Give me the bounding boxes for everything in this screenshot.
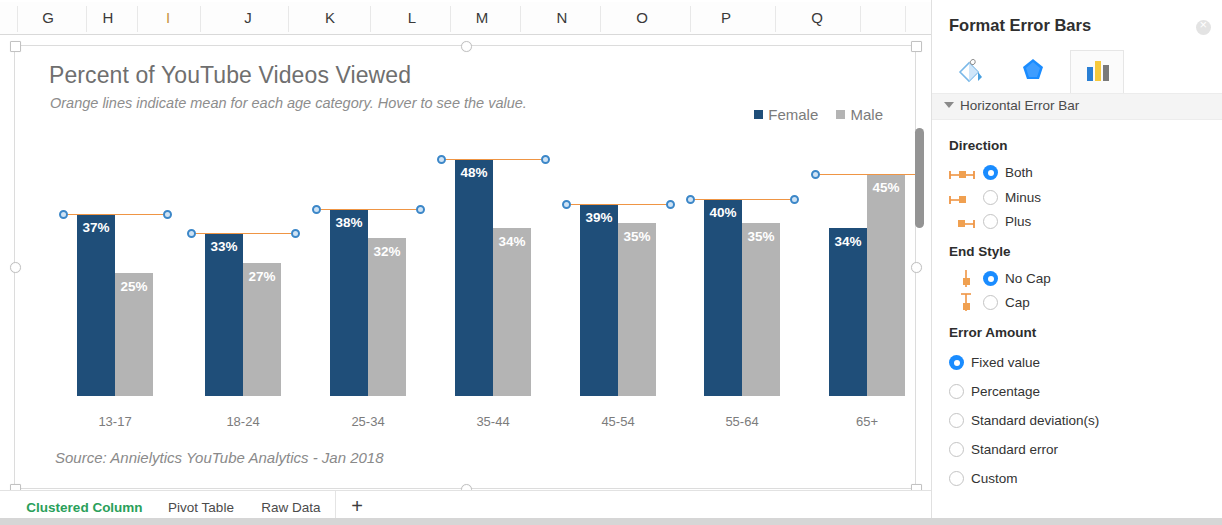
legend-item-male[interactable]: Male bbox=[836, 106, 883, 123]
bar-label-female-55-64: 40% bbox=[704, 205, 742, 220]
bar-label-female-35-44: 48% bbox=[455, 165, 493, 180]
column-header-N[interactable]: N bbox=[540, 2, 584, 34]
bar-male-65+[interactable]: 45% bbox=[867, 174, 905, 396]
chart-subtitle: Orange lines indicate mean for each age … bbox=[50, 95, 527, 111]
direction-radio-plus[interactable] bbox=[983, 214, 998, 229]
error-bar-node-right-35-44[interactable] bbox=[541, 155, 550, 164]
error-amount-radio-fixed[interactable] bbox=[949, 355, 964, 370]
x-axis-label-55-64: 55-64 bbox=[697, 414, 787, 429]
bar-male-13-17[interactable]: 25% bbox=[115, 273, 153, 396]
bar-female-13-17[interactable]: 37% bbox=[77, 214, 115, 396]
x-axis-label-18-24: 18-24 bbox=[198, 414, 288, 429]
error-bar-line-35-44[interactable] bbox=[441, 159, 545, 160]
options-chart-icon[interactable] bbox=[1070, 50, 1124, 94]
error-bar-node-left-45-54[interactable] bbox=[562, 200, 571, 209]
close-icon[interactable] bbox=[1196, 20, 1211, 35]
effects-icon[interactable] bbox=[1007, 50, 1059, 92]
resize-handle-mid-left[interactable] bbox=[10, 262, 21, 273]
column-separator bbox=[137, 6, 138, 32]
bar-female-65+[interactable]: 34% bbox=[829, 228, 867, 396]
error-bar-node-right-18-24[interactable] bbox=[291, 229, 300, 238]
resize-handle-top-right[interactable] bbox=[911, 41, 922, 52]
spreadsheet-area: GHIJKLMNOPQ Percent of YouTube Videos Vi… bbox=[0, 0, 931, 525]
endstyle-nocap-icon bbox=[959, 269, 973, 293]
bar-label-female-25-34: 38% bbox=[330, 215, 368, 230]
x-axis-label-13-17: 13-17 bbox=[70, 414, 160, 429]
error-bar-line-25-34[interactable] bbox=[316, 209, 420, 210]
end-style-radio-cap[interactable] bbox=[983, 295, 998, 310]
bar-male-45-54[interactable]: 35% bbox=[618, 223, 656, 396]
legend-label-male: Male bbox=[850, 106, 883, 123]
bar-male-55-64[interactable]: 35% bbox=[742, 223, 780, 396]
column-header-I[interactable]: I bbox=[146, 2, 190, 34]
error-bar-node-left-35-44[interactable] bbox=[437, 155, 446, 164]
error-amount-label-stdev: Standard deviation(s) bbox=[971, 413, 1099, 428]
direction-heading: Direction bbox=[949, 138, 1008, 153]
column-header-Q[interactable]: Q bbox=[795, 2, 839, 34]
column-header-G[interactable]: G bbox=[26, 2, 70, 34]
error-amount-radio-percentage[interactable] bbox=[949, 384, 964, 399]
column-header-H[interactable]: H bbox=[86, 2, 130, 34]
error-amount-radio-custom[interactable] bbox=[949, 471, 964, 486]
error-bar-node-right-55-64[interactable] bbox=[790, 195, 799, 204]
column-header-P[interactable]: P bbox=[704, 2, 748, 34]
bar-female-45-54[interactable]: 39% bbox=[580, 204, 618, 396]
bar-label-female-18-24: 33% bbox=[205, 239, 243, 254]
bar-female-35-44[interactable]: 48% bbox=[455, 159, 493, 396]
column-header-row: GHIJKLMNOPQ bbox=[0, 2, 931, 35]
error-bar-line-13-17[interactable] bbox=[63, 214, 167, 215]
bar-female-18-24[interactable]: 33% bbox=[205, 233, 243, 396]
bar-male-35-44[interactable]: 34% bbox=[493, 228, 531, 396]
column-header-J[interactable]: J bbox=[226, 2, 270, 34]
column-header-M[interactable]: M bbox=[460, 2, 504, 34]
bar-label-female-45-54: 39% bbox=[580, 210, 618, 225]
error-bar-node-left-25-34[interactable] bbox=[312, 205, 321, 214]
error-bar-line-65+[interactable] bbox=[815, 174, 919, 175]
resize-handle-top-left[interactable] bbox=[10, 41, 21, 52]
error-bar-node-right-13-17[interactable] bbox=[163, 210, 172, 219]
error-amount-radio-standard-error[interactable] bbox=[949, 442, 964, 457]
direction-radio-both[interactable] bbox=[983, 165, 998, 180]
error-amount-radio-stdev[interactable] bbox=[949, 413, 964, 428]
panel-header: Format Error Bars bbox=[932, 6, 1222, 46]
column-header-L[interactable]: L bbox=[390, 2, 434, 34]
error-bar-node-right-25-34[interactable] bbox=[416, 205, 425, 214]
error-amount-label-custom: Custom bbox=[971, 471, 1018, 486]
vertical-scrollbar[interactable] bbox=[915, 128, 924, 228]
bar-label-male-65+: 45% bbox=[867, 180, 905, 195]
direction-radio-minus[interactable] bbox=[983, 190, 998, 205]
error-bar-line-55-64[interactable] bbox=[690, 199, 794, 200]
legend-swatch-male bbox=[836, 110, 845, 119]
section-horizontal-error-bar[interactable]: Horizontal Error Bar bbox=[932, 93, 1222, 120]
bar-female-55-64[interactable]: 40% bbox=[704, 199, 742, 396]
error-bar-node-left-65+[interactable] bbox=[811, 170, 820, 179]
end-style-radio-no-cap[interactable] bbox=[983, 271, 998, 286]
bar-male-18-24[interactable]: 27% bbox=[243, 263, 281, 396]
error-bar-node-left-18-24[interactable] bbox=[187, 229, 196, 238]
direction-label-minus: Minus bbox=[1005, 190, 1041, 205]
resize-handle-top-center[interactable] bbox=[461, 41, 472, 52]
chart-source-note: Source: Annielytics YouTube Analytics - … bbox=[55, 449, 384, 466]
bar-female-25-34[interactable]: 38% bbox=[330, 209, 368, 396]
error-bar-node-right-45-54[interactable] bbox=[666, 200, 675, 209]
error-bar-node-left-13-17[interactable] bbox=[59, 210, 68, 219]
bar-male-25-34[interactable]: 32% bbox=[368, 238, 406, 396]
x-axis-label-65+: 65+ bbox=[822, 414, 912, 429]
column-header-K[interactable]: K bbox=[308, 2, 352, 34]
panel-icon-tabs bbox=[932, 50, 1222, 92]
chart-object[interactable]: Percent of YouTube Videos Viewed Orange … bbox=[14, 45, 916, 489]
fill-icon[interactable] bbox=[944, 50, 996, 92]
column-header-O[interactable]: O bbox=[620, 2, 664, 34]
column-separator bbox=[860, 6, 861, 32]
error-bar-line-45-54[interactable] bbox=[566, 204, 670, 205]
resize-handle-mid-right[interactable] bbox=[911, 262, 922, 273]
error-bar-line-18-24[interactable] bbox=[191, 233, 295, 234]
legend-label-female: Female bbox=[768, 106, 818, 123]
error-bar-node-left-55-64[interactable] bbox=[686, 195, 695, 204]
plot-area[interactable]: 37%25%13-1733%27%18-2438%32%25-3448%34%3… bbox=[15, 138, 915, 443]
legend-item-female[interactable]: Female bbox=[754, 106, 818, 123]
chart-legend: Female Male bbox=[740, 106, 883, 123]
legend-swatch-female bbox=[754, 110, 763, 119]
end-style-heading: End Style bbox=[949, 244, 1011, 259]
direction-label-both: Both bbox=[1005, 165, 1033, 180]
